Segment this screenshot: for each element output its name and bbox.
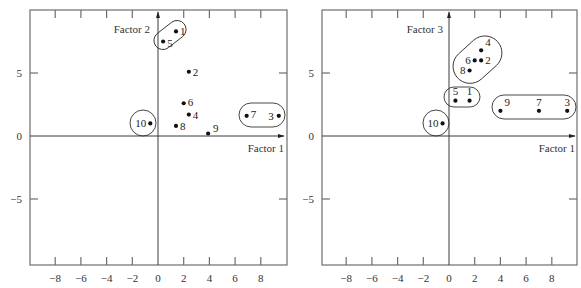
tick-labels: −8−6−4−202468−505 (10, 67, 264, 284)
y-tick-label: 0 (17, 130, 23, 142)
point-marker (174, 124, 178, 128)
data-point: 6 (465, 54, 477, 66)
x-tick-label: 0 (155, 272, 161, 284)
data-point: 1 (467, 85, 473, 103)
point-label: 8 (460, 64, 466, 76)
cluster-outlines (423, 29, 576, 136)
data-point: 1 (174, 25, 186, 37)
x-tick-label: 6 (232, 272, 238, 284)
data-point: 6 (182, 96, 194, 108)
data-point: 3 (564, 96, 570, 113)
point-marker (174, 29, 178, 33)
cluster-4-6-2-8 (446, 29, 509, 90)
point-marker (479, 48, 483, 52)
x-tick-label: −2 (417, 272, 429, 284)
point-label: 5 (167, 37, 173, 49)
data-point: 3 (268, 110, 281, 122)
point-label: 6 (188, 96, 194, 108)
point-label: 3 (564, 96, 570, 108)
point-marker (565, 109, 569, 113)
y-axis-label: Factor 3 (407, 23, 444, 35)
point-marker (277, 114, 281, 118)
point-label: 10 (135, 117, 147, 129)
plot-factor1-vs-factor3: −8−6−4−202468−505 Factor 3 Factor 1 1234… (302, 10, 577, 284)
point-marker (467, 99, 471, 103)
x-tick-label: 4 (207, 272, 213, 284)
x-tick-label: −6 (366, 272, 378, 284)
point-label: 9 (504, 96, 510, 108)
plot-factor1-vs-factor2: −8−6−4−202468−505 Factor 2 Factor 1 1234… (10, 10, 287, 284)
point-marker (453, 99, 457, 103)
point-marker (148, 121, 152, 125)
point-marker (498, 109, 502, 113)
point-label: 2 (485, 54, 491, 66)
factor-plots: −8−6−4−202468−505 Factor 2 Factor 1 1234… (0, 0, 581, 288)
point-label: 4 (485, 36, 491, 48)
x-tick-label: −8 (340, 272, 352, 284)
data-point: 10 (428, 117, 445, 129)
point-label: 1 (467, 85, 473, 97)
point-marker (473, 58, 477, 62)
cluster-outlines (130, 17, 285, 136)
data-point: 4 (479, 36, 491, 52)
x-axis-label: Factor 1 (539, 142, 575, 154)
data-point: 7 (536, 96, 542, 113)
point-label: 7 (536, 96, 542, 108)
data-point: 4 (187, 109, 199, 121)
x-tick-label: 4 (498, 272, 504, 284)
x-tick-label: 2 (181, 272, 187, 284)
point-marker (187, 70, 191, 74)
point-marker (182, 101, 186, 105)
data-point: 2 (187, 66, 199, 78)
point-label: 7 (251, 108, 257, 120)
data-point: 8 (174, 120, 186, 132)
x-tick-label: 0 (446, 272, 452, 284)
data-points: 12345678910 (135, 25, 281, 135)
point-label: 10 (428, 117, 440, 129)
point-label: 1 (180, 25, 186, 37)
point-marker (245, 114, 249, 118)
x-tick-label: −4 (392, 272, 404, 284)
y-tick-label: 5 (309, 67, 315, 79)
y-tick-label: 5 (17, 67, 23, 79)
point-label: 5 (453, 85, 459, 97)
data-point: 9 (498, 96, 510, 113)
point-marker (161, 39, 165, 43)
point-marker (537, 109, 541, 113)
data-point: 5 (161, 37, 173, 49)
point-label: 6 (465, 54, 471, 66)
x-tick-label: −4 (101, 272, 113, 284)
data-point: 2 (479, 54, 491, 66)
data-point: 9 (206, 122, 219, 135)
x-tick-label: 8 (549, 272, 555, 284)
x-tick-label: −6 (75, 272, 87, 284)
y-tick-label: 0 (309, 130, 315, 142)
data-point: 10 (135, 117, 152, 129)
point-marker (206, 131, 210, 135)
x-axis-label: Factor 1 (248, 142, 284, 154)
point-label: 2 (193, 66, 199, 78)
point-marker (479, 58, 483, 62)
y-tick-label: −5 (302, 193, 314, 205)
tick-labels: −8−6−4−202468−505 (302, 67, 555, 284)
data-point: 7 (245, 108, 257, 120)
x-tick-label: −8 (49, 272, 61, 284)
x-tick-label: 6 (523, 272, 529, 284)
x-tick-label: 8 (258, 272, 264, 284)
point-label: 3 (268, 110, 274, 122)
point-marker (467, 68, 471, 72)
point-label: 9 (213, 122, 219, 134)
point-label: 8 (180, 120, 186, 132)
data-point: 5 (453, 85, 459, 103)
point-label: 4 (193, 109, 199, 121)
x-tick-label: −2 (126, 272, 138, 284)
point-marker (440, 121, 444, 125)
y-tick-label: −5 (10, 193, 22, 205)
x-tick-label: 2 (472, 272, 478, 284)
point-marker (187, 112, 191, 116)
y-axis-label: Factor 2 (114, 23, 150, 35)
